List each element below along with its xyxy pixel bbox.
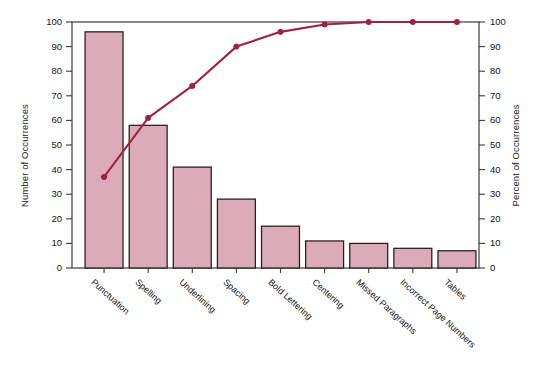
line-marker — [146, 115, 151, 120]
bar — [217, 199, 255, 268]
line-marker — [190, 83, 195, 88]
line-marker — [234, 44, 239, 49]
bar — [262, 226, 300, 268]
bar — [85, 32, 123, 268]
line-marker — [410, 19, 415, 24]
line-marker — [278, 29, 283, 34]
pareto-chart: Number of Occurrences Percent of Occurre… — [0, 0, 543, 372]
line-marker — [322, 22, 327, 27]
plot-area — [0, 0, 543, 372]
line-marker — [366, 19, 371, 24]
bar — [306, 241, 344, 268]
bar — [350, 243, 388, 268]
bar — [173, 167, 211, 268]
line-marker — [454, 19, 459, 24]
bar — [129, 125, 167, 268]
bar — [438, 251, 476, 268]
line-marker — [101, 174, 106, 179]
bar — [394, 248, 432, 268]
